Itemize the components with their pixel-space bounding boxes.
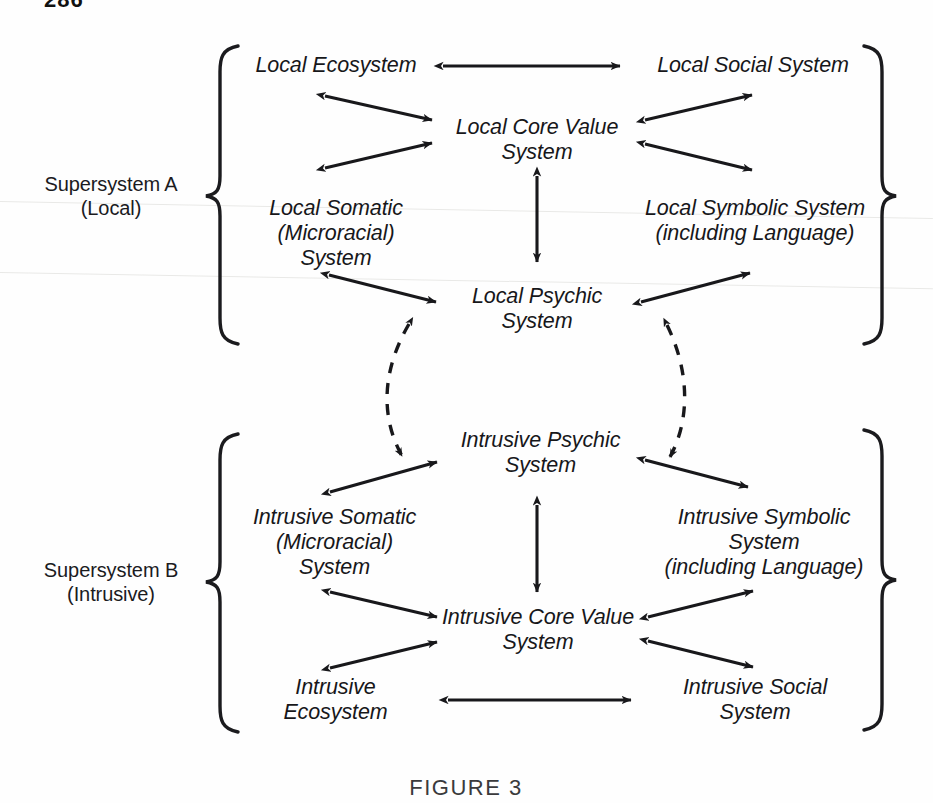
node-local-symbolic-system: Local Symbolic System (including Languag… [630,196,880,246]
node-intrusive-symbolic-system: Intrusive Symbolic System (including Lan… [640,505,888,580]
node-intrusive-somatic-system: Intrusive Somatic (Microracial) System [232,505,437,580]
node-intrusive-ecosystem: Intrusive Ecosystem [248,675,423,725]
arrow-intrusive-ecosystem-core [330,642,437,668]
node-local-core-value-system: Local Core Value System [437,115,637,165]
figure-caption: FIGURE 3 [366,775,566,801]
arrow-intrusive-somatic-core [330,592,437,617]
supersystem-a-label: Supersystem A (Local) [16,172,206,220]
node-local-ecosystem: Local Ecosystem [236,53,436,78]
page-number: 286 [44,0,84,13]
figure-page: 286 [0,0,933,803]
brace-supersystem-a-left [206,46,238,344]
arrow-intrusive-symbolic-psychic [645,460,748,487]
arrow-local-ecosystem-core [325,96,432,120]
arrow-local-symbolic-core [645,144,752,170]
brace-supersystem-a-right [864,46,896,344]
arrow-local-somatic-psychic [329,275,436,302]
brace-supersystem-b-left [206,434,238,732]
dashed-arrow-left-psychic-link [387,324,409,456]
dashed-arrow-right-psychic-link [667,325,685,457]
arrow-local-somatic-core [325,143,432,168]
brace-supersystem-b-right [864,430,896,730]
node-intrusive-social-system: Intrusive Social System [655,675,855,725]
node-local-psychic-system: Local Psychic System [442,284,632,334]
supersystem-b-label: Supersystem B (Intrusive) [16,558,206,606]
node-intrusive-core-value-system: Intrusive Core Value System [430,605,646,655]
arrow-local-social-core [645,95,752,120]
arrow-intrusive-social-core [648,641,753,667]
node-local-social-system: Local Social System [638,53,868,78]
arrow-local-symbolic-psychic [641,273,750,302]
arrow-intrusive-somatic-psychic [330,462,437,492]
node-intrusive-psychic-system: Intrusive Psychic System [443,428,638,478]
node-local-somatic-system: Local Somatic (Microracial) System [236,196,436,271]
arrow-intrusive-symbolic-core [648,591,753,617]
